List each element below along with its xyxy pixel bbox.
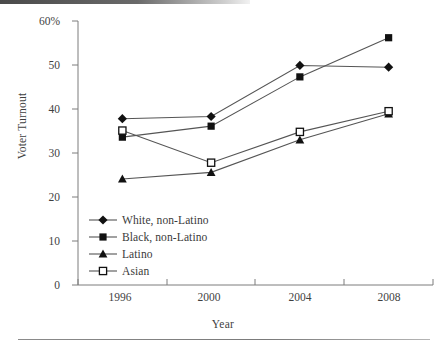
plot-area [0,0,446,351]
data-point-2-1 [207,168,216,176]
series-lines [122,38,388,179]
series-markers [118,34,393,182]
data-point-3-1 [208,159,215,166]
legend-markers [89,215,117,274]
data-point-3-3 [385,108,392,115]
legend-marker-filled-diamond [98,215,107,224]
series-line-1 [122,38,388,137]
legend-marker-open-square [99,267,106,274]
series-line-3 [122,111,388,162]
footer-rule [18,339,430,340]
data-point-0-1 [207,112,216,121]
legend-marker-filled-square [99,233,106,240]
axis-lines [72,21,433,285]
data-point-0-2 [295,61,304,70]
series-line-2 [122,114,388,179]
data-point-3-2 [296,128,303,135]
series-line-0 [122,65,388,118]
data-point-0-3 [384,63,393,72]
data-point-1-1 [208,123,215,130]
chart-figure: Voter Turnout Year 60% 50 40 30 20 10 0 … [0,0,446,351]
data-point-1-2 [296,73,303,80]
data-point-1-3 [385,34,392,41]
data-point-3-0 [119,127,126,134]
data-point-0-0 [118,114,127,123]
